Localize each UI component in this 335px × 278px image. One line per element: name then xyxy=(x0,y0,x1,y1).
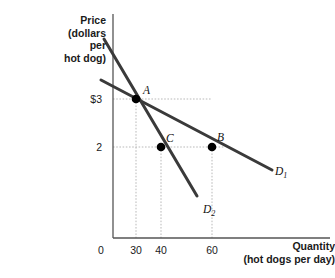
curve-d1-line xyxy=(101,80,272,170)
x-tick-label-40: 40 xyxy=(146,244,176,256)
x-axis-title: Quantity(hot dogs per day) xyxy=(232,240,335,265)
y-axis-title-line-3: per xyxy=(90,39,106,51)
point-label-a: A xyxy=(143,84,150,96)
curve-d2-line xyxy=(104,39,197,196)
x-tick-label-60: 60 xyxy=(197,244,227,256)
curve-label-d2: D2 xyxy=(203,203,215,218)
point-c-marker xyxy=(157,143,166,152)
curve-label-d1: D1 xyxy=(275,165,287,180)
demand-curves xyxy=(101,39,272,196)
point-a-marker xyxy=(132,95,141,104)
y-axis-title-line-2: (dollars xyxy=(68,27,106,39)
y-tick-label-3: $3 xyxy=(62,93,102,105)
x-axis-title-main: Quantity xyxy=(292,240,335,252)
origin-label: 0 xyxy=(98,244,104,256)
y-axis-title: Price(dollarsperhot dog) xyxy=(0,14,106,64)
y-axis-title-line-4: hot dog) xyxy=(64,52,106,64)
y-axis-title-line-1: Price xyxy=(80,14,106,26)
demand-curve-chart: Price(dollarsperhot dog) Quantity(hot do… xyxy=(0,0,335,278)
y-tick-label-2: 2 xyxy=(62,141,102,153)
curve-label-d2-subscript: 2 xyxy=(211,209,215,218)
point-b-marker xyxy=(208,143,217,152)
point-label-c: C xyxy=(166,132,174,144)
point-label-b: B xyxy=(217,131,224,143)
axes xyxy=(113,14,330,238)
x-axis-title-sub: (hot dogs per day) xyxy=(243,253,335,265)
curve-label-d1-subscript: 1 xyxy=(283,171,287,180)
